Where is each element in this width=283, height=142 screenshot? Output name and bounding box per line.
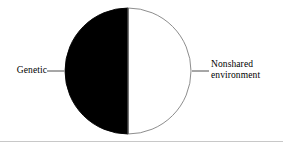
pie-label-genetic: Genetic [17,65,47,76]
pie-label-nonshared-environment: Nonshared environment [211,59,260,81]
pie-slice-nonshared-environment [128,8,191,134]
pie-chart-figure: Genetic Nonshared environment [0,0,283,142]
pie-slice-genetic [65,8,128,134]
